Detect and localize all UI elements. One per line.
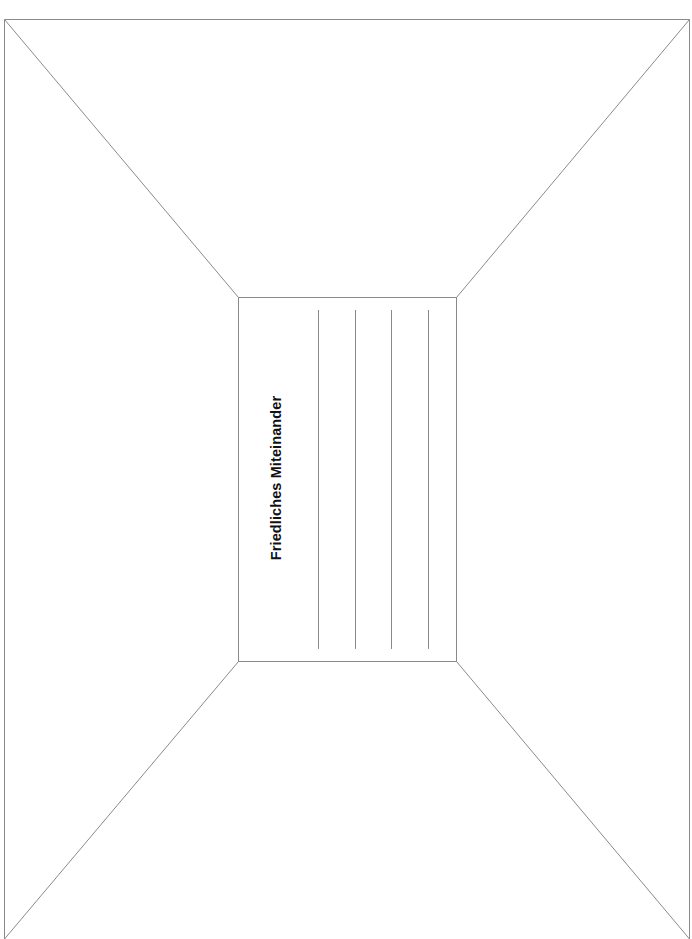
worksheet-title: Friedliches Miteinander	[268, 396, 284, 560]
diagonal-bottom-right	[457, 662, 690, 939]
diagonal-top-left	[5, 20, 239, 298]
diagonal-top-right	[457, 20, 690, 298]
diagonal-bottom-left	[5, 662, 239, 939]
worksheet-frame	[0, 0, 692, 939]
